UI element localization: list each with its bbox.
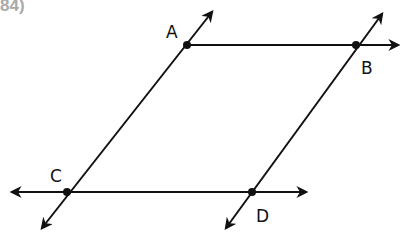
point-a bbox=[183, 41, 191, 49]
point-b bbox=[352, 41, 360, 49]
label-a: A bbox=[166, 22, 178, 42]
label-c: C bbox=[50, 166, 62, 186]
label-b: B bbox=[361, 58, 373, 78]
point-c bbox=[63, 188, 71, 196]
label-d: D bbox=[256, 206, 269, 226]
parallelogram-diagram: A B C D bbox=[0, 0, 403, 233]
point-d bbox=[248, 188, 256, 196]
